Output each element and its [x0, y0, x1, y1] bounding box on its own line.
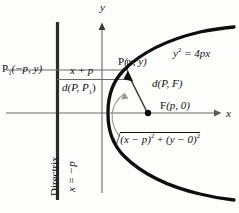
point-p-arguments: (x, y): [124, 55, 147, 67]
diagram-lines-layer: [0, 0, 239, 213]
label-distance-formula: √(x − p)2 + (y − 0)2: [112, 132, 200, 147]
y-axis-group: [99, 23, 106, 194]
label-p1-point: P1(−p, y): [2, 63, 42, 77]
dpp1-main: d(P, P: [62, 81, 89, 93]
radical-term-1: (x − p): [120, 133, 151, 145]
parabola-definition-figure: y x P1(−p, y) x + p d(P, P1) P(x, y) y2 …: [0, 0, 239, 213]
label-focus-point: F(p, 0): [160, 100, 190, 111]
parabola-lower-branch: [108, 114, 234, 200]
label-distance-p-f: d(P, F): [152, 78, 182, 89]
focus-arguments: (p, 0): [166, 99, 190, 111]
label-point-p: P(x, y): [118, 56, 147, 67]
annotation-curve-arrow: [112, 94, 124, 137]
y-axis-label: y: [100, 2, 105, 13]
radical-plus-sign: +: [154, 133, 166, 145]
p1-arguments: (−p, y): [12, 62, 43, 74]
y-axis-arrowhead: [99, 23, 106, 31]
radical-overbar: (x − p)2 + (y − 0)2: [120, 132, 200, 145]
x-axis-label: x: [226, 108, 231, 119]
label-x-plus-p: x + p: [70, 65, 93, 76]
radical-sign-glyph: √: [112, 132, 120, 148]
radical-term-2-exponent: 2: [197, 132, 200, 139]
focus-point-dot: [145, 110, 151, 116]
equation-rest: = 4px: [181, 47, 210, 59]
radical-term-2: (y − 0): [166, 133, 197, 145]
x-axis-arrowhead: [214, 110, 222, 117]
label-parabola-equation: y2 = 4px: [173, 47, 210, 59]
dpp1-close: ): [92, 81, 96, 93]
label-directrix-equation: x = −p: [66, 161, 77, 192]
label-distance-p-p1: d(P, P1): [62, 82, 96, 96]
label-directrix: Directrix: [49, 156, 60, 196]
